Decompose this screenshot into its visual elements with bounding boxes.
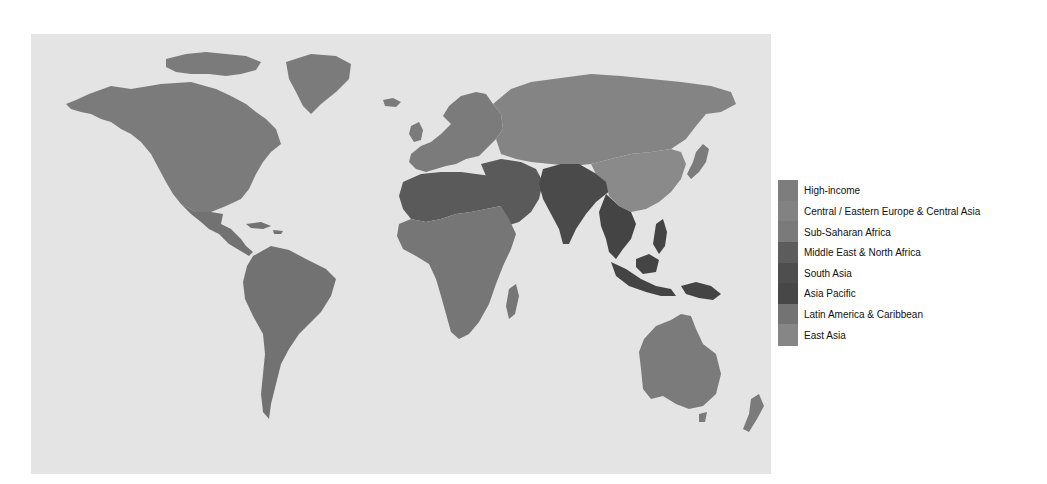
region-north-america[interactable]: [66, 82, 281, 212]
legend-label: South Asia: [804, 268, 852, 280]
region-indonesia[interactable]: [611, 254, 676, 296]
region-uk[interactable]: [409, 122, 423, 142]
region-madagascar[interactable]: [506, 284, 519, 319]
region-canadian-arctic[interactable]: [166, 52, 261, 76]
legend-swatch: [778, 201, 798, 222]
legend-swatch: [778, 324, 798, 345]
region-new-guinea[interactable]: [681, 282, 721, 300]
legend-label: Asia Pacific: [804, 288, 856, 300]
legend-swatch: [778, 263, 798, 284]
world-map: [31, 34, 771, 474]
region-new-zealand[interactable]: [743, 394, 764, 432]
map-canvas: [31, 34, 771, 474]
legend-swatch: [778, 221, 798, 242]
region-philippines[interactable]: [653, 219, 667, 254]
legend-label: Middle East & North Africa: [804, 247, 921, 259]
region-caribbean[interactable]: [246, 222, 283, 234]
region-sub-saharan-africa[interactable]: [397, 206, 516, 339]
legend-label: Latin America & Caribbean: [804, 309, 923, 321]
region-iceland[interactable]: [383, 98, 401, 107]
legend-label: East Asia: [804, 330, 846, 342]
legend-label: High-income: [804, 185, 860, 197]
region-south-america[interactable]: [243, 246, 336, 419]
legend-swatch: [778, 242, 798, 263]
legend-swatch: [778, 283, 798, 304]
legend-color-bar: [778, 180, 798, 345]
region-japan[interactable]: [687, 144, 709, 179]
region-greenland[interactable]: [286, 54, 351, 114]
legend-label: Central / Eastern Europe & Central Asia: [804, 206, 980, 218]
legend-label: Sub-Saharan Africa: [804, 227, 891, 239]
region-europe[interactable]: [409, 92, 503, 172]
region-australia[interactable]: [639, 314, 721, 422]
region-mexico-central-america[interactable]: [181, 204, 253, 256]
legend-swatch: [778, 304, 798, 325]
legend-swatch: [778, 180, 798, 201]
